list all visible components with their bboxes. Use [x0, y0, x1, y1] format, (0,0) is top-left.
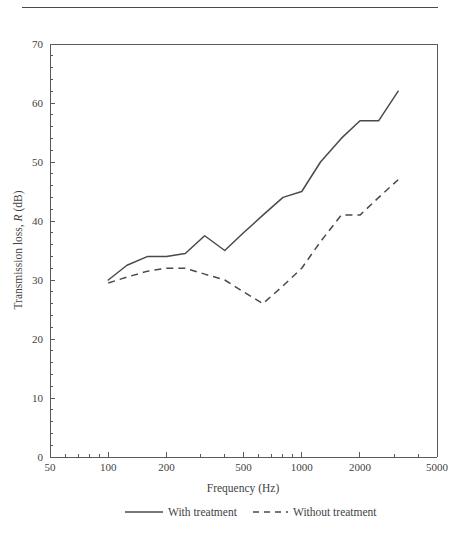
- y-tick-label: 10: [32, 392, 44, 404]
- x-tick-label: 500: [235, 461, 252, 473]
- y-axis-major-ticks: [50, 44, 55, 457]
- legend-label-with-treatment: With treatment: [168, 506, 238, 518]
- chart-canvas: 010203040506070 50100200500100020005000 …: [0, 0, 454, 536]
- x-axis-tick-labels: 50100200500100020005000: [45, 461, 449, 473]
- y-tick-label: 30: [32, 274, 44, 286]
- y-tick-label: 40: [32, 215, 44, 227]
- x-tick-label: 50: [45, 461, 57, 473]
- x-axis-title: Frequency (Hz): [207, 482, 280, 495]
- y-axis-tick-labels: 010203040506070: [32, 38, 44, 463]
- x-tick-label: 2000: [349, 461, 372, 473]
- plot-frame: [50, 44, 437, 457]
- legend-label-without-treatment: Without treatment: [293, 506, 377, 518]
- series-with-treatment: [108, 91, 398, 280]
- y-axis-title-group: Transmission loss, R (dB): [12, 190, 25, 309]
- figure-container: 010203040506070 50100200500100020005000 …: [0, 0, 454, 536]
- x-axis-major-ticks: [50, 452, 437, 457]
- y-tick-label: 0: [38, 451, 44, 463]
- y-tick-label: 60: [32, 97, 44, 109]
- y-tick-label: 50: [32, 156, 44, 168]
- series-group: [108, 91, 398, 303]
- x-tick-label: 1000: [291, 461, 314, 473]
- x-tick-label: 5000: [426, 461, 449, 473]
- y-tick-label: 70: [32, 38, 44, 50]
- x-tick-label: 200: [158, 461, 175, 473]
- y-tick-label: 20: [32, 333, 44, 345]
- legend: With treatment Without treatment: [125, 506, 377, 518]
- x-tick-label: 100: [100, 461, 117, 473]
- series-without-treatment: [108, 180, 398, 304]
- y-axis-title: Transmission loss, R (dB): [12, 190, 25, 309]
